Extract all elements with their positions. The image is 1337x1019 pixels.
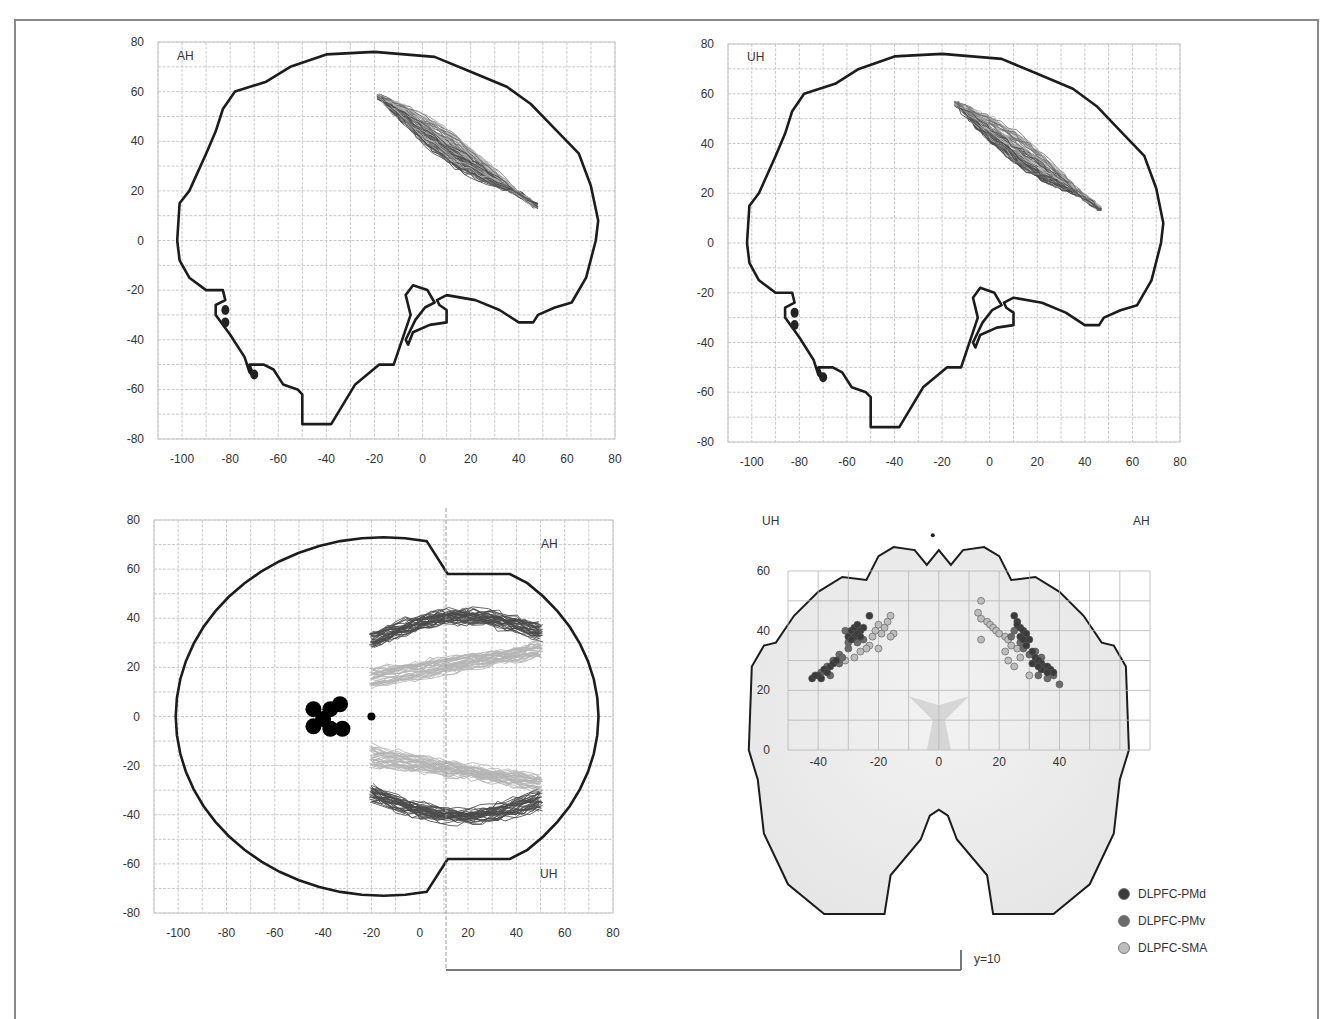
svg-text:80: 80 — [1173, 455, 1187, 469]
svg-text:-40: -40 — [809, 755, 827, 769]
svg-text:-40: -40 — [123, 808, 141, 822]
svg-text:20: 20 — [464, 452, 478, 466]
panel-label-ah: AH — [1133, 514, 1150, 528]
svg-text:-100: -100 — [166, 926, 190, 940]
svg-text:-60: -60 — [266, 926, 284, 940]
svg-text:20: 20 — [701, 186, 715, 200]
svg-text:-60: -60 — [838, 455, 856, 469]
svg-text:40: 40 — [1053, 755, 1067, 769]
sagittal-uh-panel: -100-80-60-40-20020406080806040200-20-40… — [697, 37, 1187, 469]
svg-text:0: 0 — [137, 234, 144, 248]
panel-label-ah: AH — [177, 49, 194, 63]
legend-label: DLPFC-PMv — [1138, 914, 1205, 928]
svg-text:-60: -60 — [270, 452, 288, 466]
legend-label: DLPFC-PMd — [1138, 887, 1206, 901]
axial-panel: -100-80-60-40-20020406080806040200-20-40… — [123, 513, 620, 940]
svg-text:0: 0 — [416, 926, 423, 940]
svg-text:40: 40 — [512, 452, 526, 466]
svg-text:60: 60 — [558, 926, 572, 940]
svg-text:40: 40 — [127, 611, 141, 625]
svg-text:60: 60 — [757, 564, 771, 578]
svg-text:-40: -40 — [318, 452, 336, 466]
panel-label-uh: UH — [762, 514, 779, 528]
svg-text:-40: -40 — [314, 926, 332, 940]
legend-swatch-icon — [1119, 916, 1130, 927]
panel-label-uh: UH — [540, 867, 557, 881]
svg-text:-60: -60 — [127, 382, 145, 396]
svg-text:-100: -100 — [740, 455, 764, 469]
svg-text:40: 40 — [1078, 455, 1092, 469]
svg-text:-20: -20 — [127, 283, 145, 297]
svg-text:0: 0 — [763, 743, 770, 757]
svg-text:20: 20 — [992, 755, 1006, 769]
svg-text:80: 80 — [606, 926, 620, 940]
legend-swatch-icon — [1119, 889, 1130, 900]
svg-text:20: 20 — [1031, 455, 1045, 469]
panel-label-uh: UH — [747, 50, 764, 64]
svg-text:-20: -20 — [123, 759, 141, 773]
panel-label-ah: AH — [541, 537, 558, 551]
svg-text:-20: -20 — [697, 286, 715, 300]
legend-item: DLPFC-SMA — [1119, 941, 1208, 955]
svg-text:-100: -100 — [170, 452, 194, 466]
svg-text:20: 20 — [131, 184, 145, 198]
svg-text:20: 20 — [127, 660, 141, 674]
svg-text:-20: -20 — [363, 926, 381, 940]
svg-text:0: 0 — [986, 455, 993, 469]
svg-text:-60: -60 — [123, 857, 141, 871]
svg-text:20: 20 — [461, 926, 475, 940]
svg-text:-80: -80 — [218, 926, 236, 940]
svg-text:40: 40 — [757, 624, 771, 638]
svg-text:80: 80 — [127, 513, 141, 527]
legend-swatch-icon — [1119, 943, 1130, 954]
svg-text:60: 60 — [131, 85, 145, 99]
svg-text:-20: -20 — [933, 455, 951, 469]
legend-item: DLPFC-PMv — [1119, 914, 1206, 928]
slice-label: y=10 — [974, 952, 1001, 966]
svg-text:60: 60 — [127, 562, 141, 576]
svg-text:-80: -80 — [697, 435, 715, 449]
svg-text:40: 40 — [701, 137, 715, 151]
svg-text:-40: -40 — [127, 333, 145, 347]
svg-text:0: 0 — [935, 755, 942, 769]
svg-text:80: 80 — [701, 37, 715, 51]
svg-text:40: 40 — [131, 134, 145, 148]
svg-text:0: 0 — [707, 236, 714, 250]
legend-label: DLPFC-SMA — [1138, 941, 1207, 955]
svg-text:-20: -20 — [870, 755, 888, 769]
svg-text:40: 40 — [510, 926, 524, 940]
svg-text:-60: -60 — [697, 385, 715, 399]
svg-text:60: 60 — [560, 452, 574, 466]
svg-text:-40: -40 — [697, 336, 715, 350]
svg-text:0: 0 — [419, 452, 426, 466]
svg-text:-80: -80 — [791, 455, 809, 469]
coronal-panel: -40-20020406040200 UH AH — [749, 514, 1150, 914]
sagittal-ah-panel: -100-80-60-40-20020406080806040200-20-40… — [127, 35, 622, 466]
svg-text:60: 60 — [1126, 455, 1140, 469]
svg-text:0: 0 — [133, 710, 140, 724]
svg-text:20: 20 — [757, 683, 771, 697]
svg-text:-80: -80 — [123, 906, 141, 920]
legend: DLPFC-PMdDLPFC-PMvDLPFC-SMA — [1119, 887, 1208, 955]
svg-text:80: 80 — [131, 35, 145, 49]
svg-text:60: 60 — [701, 87, 715, 101]
svg-text:-40: -40 — [886, 455, 904, 469]
legend-item: DLPFC-PMd — [1119, 887, 1207, 901]
svg-text:-80: -80 — [221, 452, 239, 466]
svg-text:80: 80 — [608, 452, 622, 466]
svg-text:-20: -20 — [366, 452, 384, 466]
svg-text:-80: -80 — [127, 432, 145, 446]
